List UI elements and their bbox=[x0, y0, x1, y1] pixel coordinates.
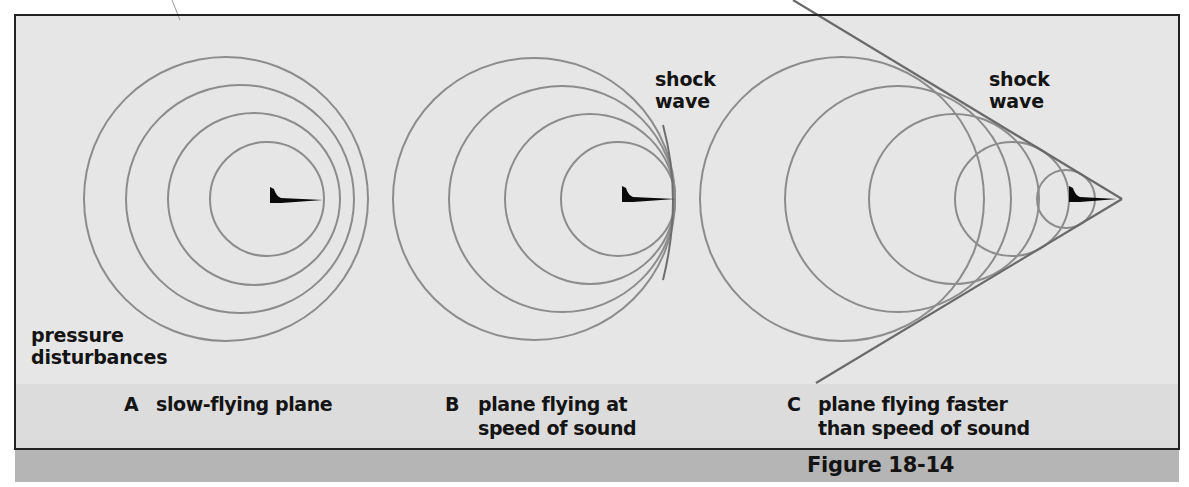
label-line-2: wave bbox=[989, 90, 1050, 112]
label-line-2: disturbances bbox=[31, 346, 167, 368]
shock-wave-label-b: shock wave bbox=[655, 68, 716, 112]
caption-text-a: slow-flying plane bbox=[156, 392, 332, 416]
figure-number: Figure 18-14 bbox=[807, 452, 954, 478]
caption-text-b: plane flying at speed of sound bbox=[478, 392, 636, 440]
figure-18-14: pressure disturbances shock wave shock w… bbox=[0, 0, 1189, 487]
caption-c: C plane flying faster than speed of soun… bbox=[787, 392, 1030, 440]
caption-b: B plane flying at speed of sound bbox=[445, 392, 636, 440]
label-line-1: shock bbox=[655, 68, 716, 90]
caption-letter-c: C bbox=[787, 392, 818, 416]
caption-text-c: plane flying faster than speed of sound bbox=[818, 392, 1030, 440]
shock-wave-label-c: shock wave bbox=[989, 68, 1050, 112]
caption-letter-b: B bbox=[445, 392, 478, 416]
label-line-2: wave bbox=[655, 90, 716, 112]
figure-number-bar bbox=[15, 449, 1179, 482]
pressure-disturbances-label: pressure disturbances bbox=[31, 324, 167, 368]
caption-a: A slow-flying plane bbox=[124, 392, 332, 416]
caption-letter-a: A bbox=[124, 392, 156, 416]
label-line-1: pressure bbox=[31, 324, 167, 346]
label-line-1: shock bbox=[989, 68, 1050, 90]
